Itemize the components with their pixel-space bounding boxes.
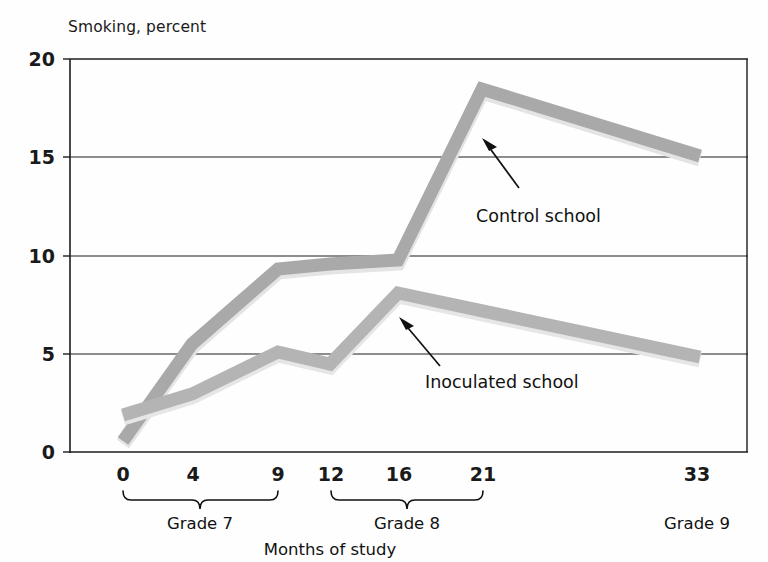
x-tick-12: 12 bbox=[318, 463, 344, 485]
x-tick-16: 16 bbox=[386, 463, 412, 485]
grade-7-label: Grade 7 bbox=[167, 514, 233, 533]
inoculated-school-arrowhead bbox=[399, 317, 414, 330]
grade-8-label: Grade 8 bbox=[374, 514, 440, 533]
grade-8-bracket bbox=[331, 491, 483, 509]
gridlines bbox=[70, 59, 748, 354]
x-tick-9: 9 bbox=[271, 463, 284, 485]
smoking-percent-line-chart: 20 15 10 5 0 Control school Inoculated s… bbox=[0, 0, 768, 562]
x-tick-33: 33 bbox=[684, 463, 710, 485]
y-tick-15: 15 bbox=[29, 146, 55, 168]
inoculated-school-shadow bbox=[123, 296, 700, 418]
x-tick-21: 21 bbox=[470, 463, 496, 485]
control-school-arrowhead bbox=[482, 138, 497, 151]
y-tick-marks bbox=[63, 59, 70, 452]
grade-7-bracket bbox=[123, 491, 278, 509]
x-axis-title: Months of study bbox=[264, 540, 397, 559]
inoculated-school-annotation-label: Inoculated school bbox=[425, 372, 579, 392]
x-tick-0: 0 bbox=[116, 463, 129, 485]
y-tick-20: 20 bbox=[29, 48, 55, 70]
x-tick-4: 4 bbox=[186, 463, 199, 485]
grade-9-label: Grade 9 bbox=[664, 514, 730, 533]
annotation-control-school: Control school bbox=[476, 138, 601, 226]
y-tick-0: 0 bbox=[42, 441, 55, 463]
chart-canvas: Smoking, percent 20 15 10 5 bbox=[0, 0, 768, 562]
x-tick-labels: 0 4 9 12 16 21 33 bbox=[116, 463, 710, 485]
control-school-annotation-label: Control school bbox=[476, 206, 601, 226]
series-inoculated-school bbox=[123, 293, 700, 418]
y-tick-labels: 20 15 10 5 0 bbox=[29, 48, 55, 463]
y-tick-10: 10 bbox=[29, 245, 55, 267]
y-tick-5: 5 bbox=[42, 343, 55, 365]
